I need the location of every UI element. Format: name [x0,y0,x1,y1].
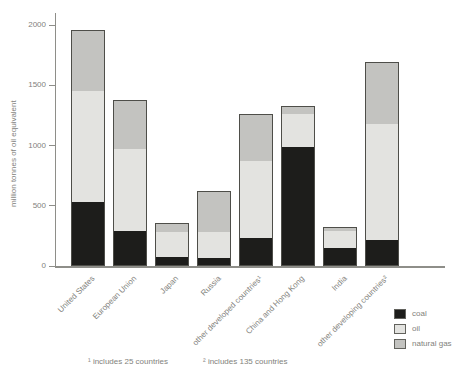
bar-2 [113,100,147,266]
y-tick-label: 500 [18,201,46,211]
footnote-1: ¹ includes 25 countries [88,357,168,366]
legend-label: oil [412,324,420,333]
bar-segment-coal [324,248,356,265]
x-axis-label: European Union [91,274,138,321]
y-tick-mark [49,145,55,146]
bar-7 [323,227,357,266]
bar-segment-oil [114,148,146,231]
bar-segment-natural-gas [156,223,188,232]
bar-segment-natural-gas [366,62,398,124]
x-axis-label: United States [56,274,96,314]
y-tick-label: 2000 [18,20,46,30]
x-axis-label: other developing countries² [316,274,391,349]
bar-6 [281,106,315,266]
x-axis-label: Japan [159,274,181,296]
bar-segment-oil [156,231,188,257]
bar-segment-coal [282,147,314,265]
y-tick-mark [49,25,55,26]
bar-segment-natural-gas [324,227,356,232]
legend-label: natural gas [412,339,452,348]
legend-item-coal: coal [394,306,452,321]
bar-segment-coal [240,238,272,265]
bar-segment-coal [198,258,230,265]
bar-1 [71,30,105,266]
bar-segment-natural-gas [240,114,272,162]
fossil-fuel-consumption-chart: million tonnes of oil equivalent coaloil… [0,0,464,374]
bar-segment-coal [114,231,146,265]
bar-segment-oil [72,90,104,203]
bar-segment-natural-gas [114,100,146,150]
y-tick-mark [49,266,55,267]
x-axis-label: other developed countries¹ [191,274,264,347]
natural-gas-swatch-icon [394,339,406,349]
bar-segment-coal [72,202,104,265]
legend-item-oil: oil [394,321,452,336]
bar-segment-natural-gas [198,191,230,232]
legend: coaloilnatural gas [394,306,452,351]
y-tick-label: 1500 [18,80,46,90]
coal-swatch-icon [394,309,406,319]
y-tick-mark [49,205,55,206]
bar-segment-oil [198,231,230,258]
bar-segment-natural-gas [72,30,104,91]
y-tick-label: 1000 [18,141,46,151]
legend-item-natural-gas: natural gas [394,336,452,351]
bar-5 [239,114,273,266]
y-tick-mark [49,85,55,86]
y-tick-label: 0 [18,261,46,271]
y-axis-line [55,13,56,267]
bar-8 [365,62,399,266]
oil-swatch-icon [394,324,406,334]
y-axis-title: million tonnes of oil equivalent [9,100,18,207]
bar-segment-oil [282,113,314,147]
bar-4 [197,191,231,266]
bar-segment-oil [366,123,398,240]
x-axis-label: Russia [199,274,223,298]
bar-segment-coal [156,257,188,265]
footnote-2: ² includes 135 countries [203,357,288,366]
x-axis-line [55,266,445,268]
legend-label: coal [412,309,427,318]
x-axis-label: India [330,274,349,293]
bar-segment-oil [324,230,356,248]
bar-segment-oil [240,160,272,238]
bar-segment-natural-gas [282,106,314,114]
bar-3 [155,223,189,266]
bar-segment-coal [366,240,398,265]
